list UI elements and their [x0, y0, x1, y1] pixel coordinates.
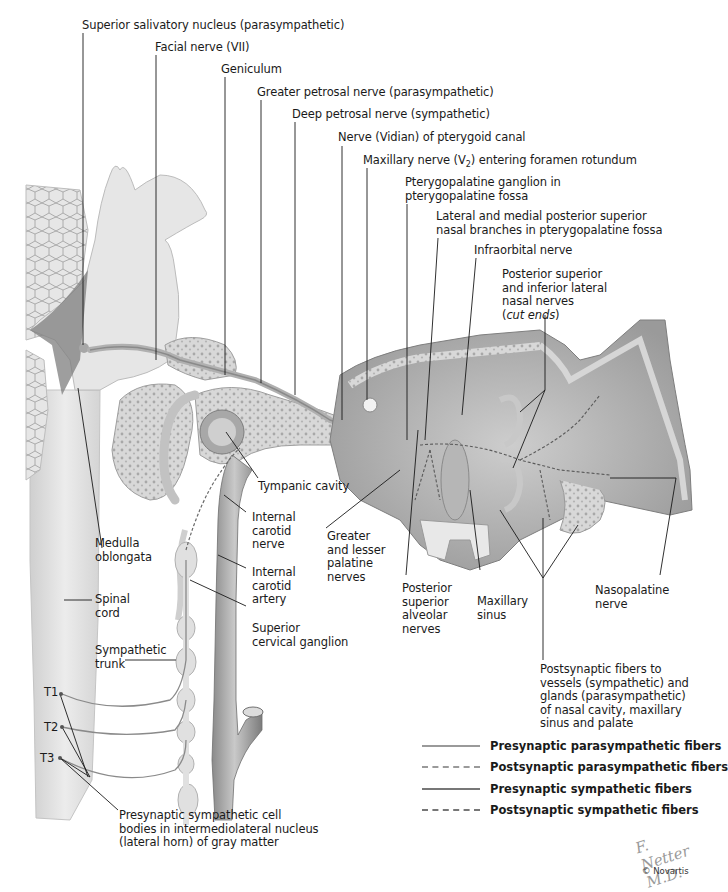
dashed-line-icon	[422, 809, 480, 811]
label-paren: )	[555, 308, 559, 322]
label-line: nerve	[252, 538, 296, 552]
label-line: superior	[402, 596, 452, 610]
label-facial-nerve: Facial nerve (VII)	[155, 41, 249, 55]
legend-item-presynaptic-sympathetic: Presynaptic sympathetic fibers	[422, 778, 728, 800]
legend-item-presynaptic-parasympathetic: Presynaptic parasympathetic fibers	[422, 735, 728, 757]
solid-line-icon	[422, 788, 480, 790]
legend-label: Presynaptic sympathetic fibers	[490, 782, 692, 796]
dashed-line-icon	[422, 766, 480, 768]
label-line: alveolar	[402, 609, 452, 623]
label-line: Posterior superior	[502, 268, 607, 282]
solid-line-icon	[422, 745, 480, 747]
label-line: bodies in intermediolateral nucleus	[119, 823, 319, 837]
fiber-legend: Presynaptic parasympathetic fibers Posts…	[422, 735, 728, 821]
label-posterior-superior-alveolar-nerves: Posteriorsuperioralveolarnerves	[402, 582, 452, 636]
label-line: artery	[252, 593, 296, 607]
label-line: Pterygopalatine ganglion in	[405, 176, 561, 190]
label-line: (lateral horn) of gray matter	[119, 836, 319, 850]
label-line: pterygopalatine fossa	[405, 190, 561, 204]
label-line: nerves	[402, 623, 452, 637]
label-line: Internal	[252, 566, 296, 580]
label-line: carotid	[252, 525, 296, 539]
label-line: nasal nerves	[502, 295, 607, 309]
label-line: glands (parasympathetic)	[540, 690, 689, 704]
label-pterygopalatine-ganglion: Pterygopalatine ganglion inpterygopalati…	[405, 176, 561, 203]
label-greater-lesser-palatine-nerves: Greaterand lesserpalatinenerves	[327, 530, 385, 584]
label-line: (cut ends)	[502, 309, 607, 323]
label-line: Spinal	[95, 593, 130, 607]
label-line: Posterior	[402, 582, 452, 596]
label-t2: T2	[44, 721, 58, 735]
label-tympanic-cavity: Tympanic cavity	[258, 480, 349, 494]
label-line: Medulla	[95, 537, 152, 551]
label-spinal-cord: Spinalcord	[95, 593, 130, 620]
label-posterior-superior-inferior-lateral-nasal-nerves: Posterior superior and inferior lateral …	[502, 268, 607, 322]
label-line: nerves	[327, 571, 385, 585]
label-line: Postsynaptic fibers to	[540, 663, 689, 677]
label-deep-petrosal-nerve: Deep petrosal nerve (sympathetic)	[292, 108, 490, 122]
label-line: Maxillary	[477, 595, 528, 609]
label-greater-petrosal-nerve: Greater petrosal nerve (parasympathetic)	[257, 86, 494, 100]
label-internal-carotid-artery: Internalcarotidartery	[252, 566, 296, 607]
label-presynaptic-cell-bodies: Presynaptic sympathetic cell bodies in i…	[119, 809, 319, 850]
label-t1: T1	[44, 686, 58, 700]
legend-item-postsynaptic-sympathetic: Postsynaptic sympathetic fibers	[422, 800, 728, 822]
label-line: and inferior lateral	[502, 282, 607, 296]
label-line: Sympathetic	[95, 644, 166, 658]
label-line: carotid	[252, 580, 296, 594]
label-sympathetic-trunk: Sympathetictrunk	[95, 644, 166, 671]
label-line: cervical ganglion	[252, 636, 348, 650]
label-geniculum: Geniculum	[221, 63, 282, 77]
label-line: sinus	[477, 609, 528, 623]
label-internal-carotid-nerve: Internalcarotidnerve	[252, 511, 296, 552]
label-maxillary-sinus: Maxillarysinus	[477, 595, 528, 622]
label-line: Lateral and medial posterior superior	[436, 210, 662, 224]
label-vidian-nerve: Nerve (Vidian) of pterygoid canal	[338, 131, 525, 145]
legend-label: Presynaptic parasympathetic fibers	[490, 739, 721, 753]
label-line: vessels (sympathetic) and	[540, 677, 689, 691]
label-infraorbital-nerve: Infraorbital nerve	[474, 244, 572, 258]
label-superior-cervical-ganglion: Superiorcervical ganglion	[252, 622, 348, 649]
legend-item-postsynaptic-parasympathetic: Postsynaptic parasympathetic fibers	[422, 757, 728, 779]
label-superior-salivatory-nucleus: Superior salivatory nucleus (parasympath…	[82, 19, 344, 33]
label-line: Presynaptic sympathetic cell	[119, 809, 319, 823]
label-maxillary-nerve: Maxillary nerve (V2) entering foramen ro…	[363, 154, 637, 172]
label-line: trunk	[95, 658, 166, 672]
legend-label: Postsynaptic parasympathetic fibers	[490, 760, 728, 774]
legend-label: Postsynaptic sympathetic fibers	[490, 803, 699, 817]
copyright-notice: © Novartis	[642, 866, 689, 876]
label-maxillary-nerve-post: ) entering foramen rotundum	[471, 153, 637, 167]
label-line: palatine	[327, 557, 385, 571]
label-maxillary-nerve-pre: Maxillary nerve (V	[363, 153, 466, 167]
label-line: and lesser	[327, 544, 385, 558]
label-line: nerve	[595, 598, 669, 612]
label-line: of nasal cavity, maxillary	[540, 704, 689, 718]
label-t3: T3	[40, 752, 54, 766]
label-italic: cut ends	[506, 308, 555, 322]
label-line: oblongata	[95, 551, 152, 565]
label-medulla-oblongata: Medullaoblongata	[95, 537, 152, 564]
label-lateral-medial-nasal-branches: Lateral and medial posterior superiornas…	[436, 210, 662, 237]
label-line: sinus and palate	[540, 717, 689, 731]
label-line: cord	[95, 607, 130, 621]
label-postsynaptic-fibers: Postsynaptic fibers to vessels (sympathe…	[540, 663, 689, 731]
label-line: Superior	[252, 622, 348, 636]
label-line: nasal branches in pterygopalatine fossa	[436, 224, 662, 238]
label-line: Nasopalatine	[595, 584, 669, 598]
label-line: Greater	[327, 530, 385, 544]
label-nasopalatine-nerve: Nasopalatinenerve	[595, 584, 669, 611]
label-line: Internal	[252, 511, 296, 525]
